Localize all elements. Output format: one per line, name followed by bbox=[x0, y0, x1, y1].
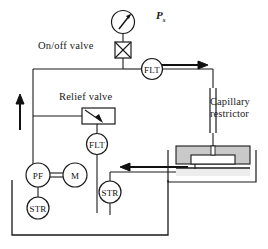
supply-pressure-subscript: s bbox=[163, 16, 166, 24]
filter-supply: FLT bbox=[142, 59, 163, 80]
relief-valve-label: Relief valve bbox=[59, 91, 112, 102]
filter-relief-label: FLT bbox=[89, 140, 105, 150]
on-off-valve-label: On/off valve bbox=[38, 40, 94, 51]
strainer-pump-label: STR bbox=[29, 204, 46, 214]
pressure-gauge bbox=[112, 11, 135, 34]
gauge-body bbox=[112, 11, 135, 34]
pump-motor-group: PF M bbox=[26, 163, 87, 187]
relief-valve-icon[interactable] bbox=[82, 108, 115, 124]
on-off-valve-icon[interactable] bbox=[115, 42, 131, 58]
strainer-return: STR bbox=[99, 181, 121, 203]
strainer-pump: STR bbox=[27, 197, 49, 219]
arrow-to-capillary-head bbox=[198, 61, 208, 69]
strainer-return-label: STR bbox=[101, 188, 118, 198]
motor-label: M bbox=[71, 171, 79, 181]
supply-pressure-label: Ps bbox=[156, 10, 165, 25]
supply-pressure-symbol: P bbox=[156, 9, 163, 21]
schematic-canvas: FLT bbox=[0, 0, 268, 249]
hydraulic-schematic-diagram: FLT bbox=[0, 0, 268, 249]
arrow-supply-riser-head bbox=[16, 94, 24, 104]
filter-supply-label: FLT bbox=[144, 65, 160, 75]
pump-label: PF bbox=[33, 171, 43, 181]
capillary-restrictor-label: Capillary restrictor bbox=[210, 96, 266, 121]
bearing-fluid-film bbox=[176, 169, 250, 176]
pipe-network bbox=[33, 33, 213, 215]
bearing-feed-hole bbox=[211, 146, 215, 155]
bearing-recess bbox=[191, 155, 235, 164]
filter-relief: FLT bbox=[87, 134, 108, 155]
bearing-pad-assembly bbox=[168, 146, 256, 182]
arrow-return-head bbox=[120, 163, 130, 171]
